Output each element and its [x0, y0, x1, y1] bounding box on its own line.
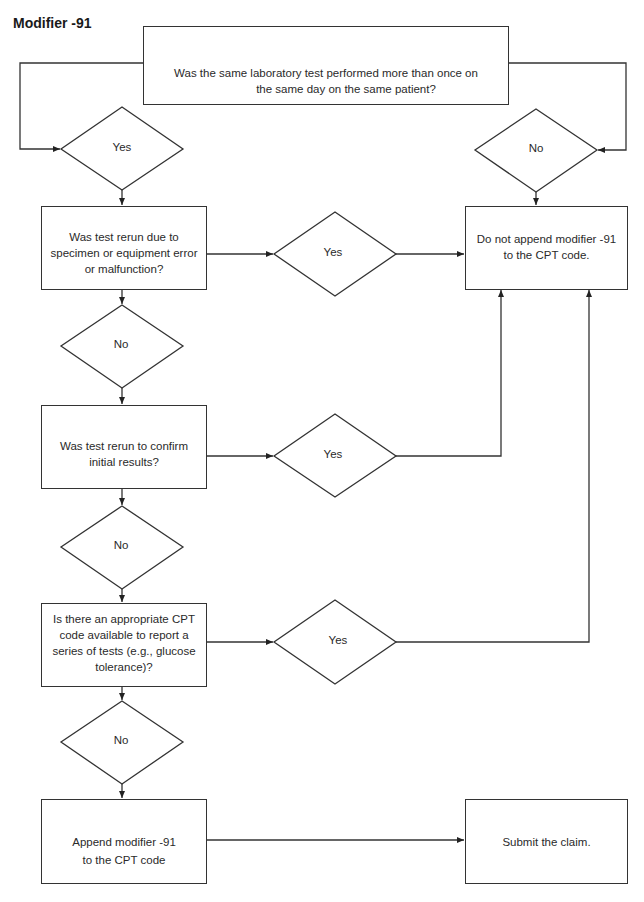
q1-line: Was test rerun due to: [50, 229, 197, 245]
decision-label-q3-no: No: [91, 734, 151, 746]
q3-line: series of tests (e.g., glucose: [52, 643, 195, 659]
q1-line: or malfunction?: [50, 261, 197, 277]
question-cpt-series-box: Is there an appropriate CPT code availab…: [41, 603, 207, 687]
append-line: to the CPT code: [72, 851, 176, 869]
do-not-append-line: to the CPT code.: [477, 247, 616, 263]
decision-label-start-yes: Yes: [92, 141, 152, 153]
append-modifier-box: Append modifier -91 to the CPT code: [41, 799, 207, 884]
decision-label-q1-yes: Yes: [303, 246, 363, 258]
decision-label-q1-no: No: [91, 338, 151, 350]
q1-line: specimen or equipment error: [50, 245, 197, 261]
decision-label-q2-yes: Yes: [303, 448, 363, 460]
start-question-line1: Was the same laboratory test performed m…: [174, 65, 478, 81]
q2-line: initial results?: [60, 454, 188, 470]
q2-line: Was test rerun to confirm: [60, 438, 188, 454]
question-confirm-results-box: Was test rerun to confirm initial result…: [41, 405, 207, 489]
decision-label-q3-yes: Yes: [308, 634, 368, 646]
do-not-append-box: Do not append modifier -91 to the CPT co…: [465, 206, 628, 290]
decision-label-start-no: No: [506, 142, 566, 154]
decision-label-q2-no: No: [91, 539, 151, 551]
q3-line: code available to report a: [52, 627, 195, 643]
q3-line: tolerance)?: [52, 659, 195, 675]
q3-line: Is there an appropriate CPT: [52, 611, 195, 627]
submit-claim-text: Submit the claim.: [502, 834, 590, 850]
start-question-line2: the same day on the same patient?: [174, 81, 478, 97]
question-specimen-error-box: Was test rerun due to specimen or equipm…: [41, 206, 207, 290]
append-line: Append modifier -91: [72, 833, 176, 851]
submit-claim-box: Submit the claim.: [465, 799, 628, 884]
start-question-box: Was the same laboratory test performed m…: [143, 26, 509, 105]
do-not-append-line: Do not append modifier -91: [477, 231, 616, 247]
